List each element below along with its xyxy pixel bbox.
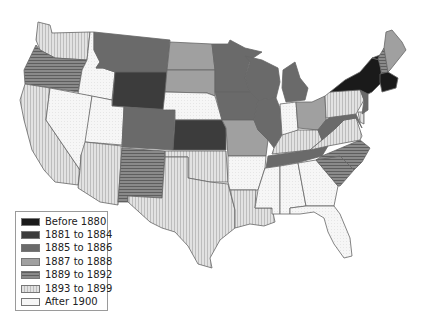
legend-label: After 1900	[45, 297, 98, 307]
legend-label: 1887 to 1888	[45, 257, 112, 267]
state-fl	[290, 206, 352, 258]
legend-item-1889-1892: 1889 to 1892	[21, 269, 107, 282]
state-ks	[173, 120, 226, 150]
state-mi	[282, 62, 308, 102]
state-ia	[215, 92, 258, 120]
state-oh	[296, 96, 326, 130]
state-co	[122, 107, 175, 150]
state-ma-ct-ri	[380, 72, 398, 92]
legend-item-before-1880: Before 1880	[21, 215, 107, 228]
legend-label: 1885 to 1886	[45, 243, 112, 253]
legend-item-1887-1888: 1887 to 1888	[21, 255, 107, 268]
legend-swatch-icon	[21, 231, 40, 239]
legend-swatch-icon	[21, 271, 40, 279]
legend-label: Before 1880	[45, 217, 106, 227]
legend-item-after-1900: After 1900	[21, 295, 107, 308]
legend-swatch-icon	[21, 258, 40, 266]
legend-swatch-icon	[21, 285, 40, 293]
state-nm	[118, 148, 165, 202]
state-mt	[94, 32, 170, 72]
state-me	[384, 30, 406, 72]
legend-item-1881-1884: 1881 to 1884	[21, 228, 107, 241]
legend-swatch-icon	[21, 218, 40, 226]
legend-swatch-icon	[21, 244, 40, 252]
state-ny	[330, 58, 382, 94]
state-az	[78, 142, 122, 205]
legend-label: 1893 to 1899	[45, 284, 112, 294]
legend-item-1885-1886: 1885 to 1886	[21, 242, 107, 255]
state-nd	[167, 42, 215, 70]
legend-swatch-icon	[21, 298, 40, 306]
legend-label: 1889 to 1892	[45, 270, 112, 280]
state-wy	[112, 72, 167, 110]
map-legend: Before 1880 1881 to 1884 1885 to 1886 18…	[15, 211, 108, 311]
legend-label: 1881 to 1884	[45, 230, 112, 240]
legend-item-1893-1899: 1893 to 1899	[21, 282, 107, 295]
